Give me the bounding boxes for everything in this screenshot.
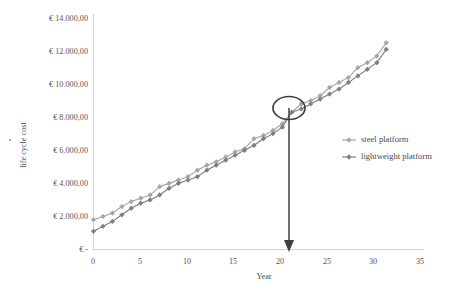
x-tick-label: 25 — [323, 257, 331, 266]
data-point-marker — [336, 80, 341, 85]
series-line — [94, 43, 387, 220]
legend-item[interactable]: steel platform — [342, 134, 409, 144]
x-tick-label: 15 — [229, 257, 237, 266]
y-axis-title: life cycle cost — [19, 122, 28, 168]
data-point-marker — [327, 91, 332, 96]
x-tick-label: 5 — [138, 257, 142, 266]
crossover-annotation — [273, 97, 305, 253]
x-axis-tick-labels: 0 5 10 15 20 25 30 35 — [91, 257, 424, 266]
data-point-marker — [91, 229, 96, 234]
x-tick-label: 30 — [369, 257, 377, 266]
x-tick-label: 0 — [91, 257, 95, 266]
y-tick-label: € - — [79, 245, 88, 254]
y-tick-label: € 8.000,00 — [53, 113, 88, 122]
y-tick-label: € 6.000,00 — [53, 146, 88, 155]
series-layer — [91, 40, 389, 234]
x-tick-label: 35 — [416, 257, 424, 266]
data-point-marker — [185, 177, 190, 182]
y-tick-label: € 2.000,00 — [53, 212, 88, 221]
legend-marker — [346, 154, 351, 159]
chart-canvas: € 14.000,00 € 12.000,00 € 10.000,00 € 8.… — [0, 0, 465, 291]
legend-label: steel platform — [361, 134, 409, 144]
x-axis-title: Year — [256, 272, 271, 281]
data-point-marker — [91, 217, 96, 222]
data-point-marker — [100, 224, 105, 229]
data-point-marker — [176, 181, 181, 186]
legend-label: lightweight platform — [361, 151, 432, 161]
y-tick-label: € 12.000,00 — [49, 47, 88, 56]
data-point-marker — [166, 181, 171, 186]
data-point-marker — [299, 106, 304, 111]
legend: steel platformlightweight platform — [342, 134, 432, 161]
legend-marker — [346, 137, 351, 142]
x-tick-label: 10 — [183, 257, 191, 266]
stray-speck — [9, 139, 11, 141]
data-point-marker — [308, 101, 313, 106]
data-point-marker — [148, 197, 153, 202]
data-point-marker — [138, 201, 143, 206]
data-point-marker — [100, 214, 105, 219]
series-steel-platform — [91, 40, 389, 222]
x-tick-label: 20 — [276, 257, 284, 266]
data-point-marker — [214, 163, 219, 168]
data-point-marker — [129, 199, 134, 204]
y-tick-label: € 10.000,00 — [49, 80, 88, 89]
data-point-marker — [204, 163, 209, 168]
y-axis-tick-labels: € 14.000,00 € 12.000,00 € 10.000,00 € 8.… — [49, 14, 88, 254]
life-cycle-cost-chart: € 14.000,00 € 12.000,00 € 10.000,00 € 8.… — [0, 0, 465, 291]
crossover-arrow-head — [284, 240, 294, 252]
y-tick-label: € 14.000,00 — [49, 14, 88, 23]
y-tick-label: € 4.000,00 — [53, 179, 88, 188]
data-point-marker — [138, 196, 143, 201]
legend-item[interactable]: lightweight platform — [342, 151, 432, 161]
